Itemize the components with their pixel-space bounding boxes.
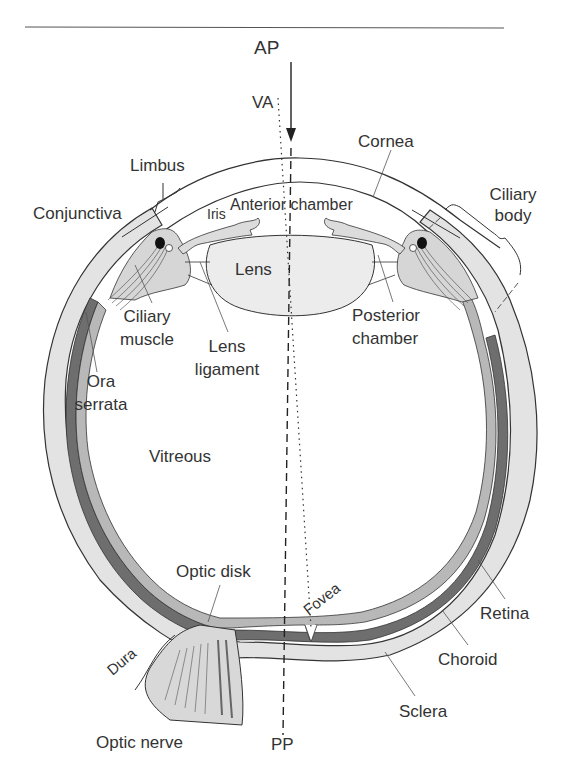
optic-nerve-label: Optic nerve [96,733,183,752]
canal-left [155,237,165,249]
visual-axis [278,98,311,628]
ora-serrata-label: Ora serrata [66,372,136,414]
posterior-chamber-label-line1: Posterior [352,306,420,325]
ciliary-muscle-label-line2: muscle [112,330,182,349]
lens-ligament-label-line2: ligament [182,360,272,379]
canal-circle-left [166,245,173,252]
ap-label: AP [254,38,279,57]
anterior-chamber-label: Anterior chamber [230,195,353,214]
lens-ligament-label: Lens ligament [182,337,272,379]
lens-ligament-label-line1: Lens [182,337,272,356]
pp-label: PP [271,735,294,754]
vitreous-label: Vitreous [149,447,211,466]
ora-serrata-label-line2: serrata [66,395,136,414]
limbus-label: Limbus [130,156,185,175]
ciliary-body-label: Ciliary body [478,185,548,225]
sclera-label: Sclera [399,702,447,721]
iris-label: Iris [207,205,226,224]
lens [206,235,374,316]
ora-serrata-label-line1: Ora [66,372,136,391]
va-label: VA [252,93,273,112]
ciliary-muscle-label: Ciliary muscle [112,307,182,349]
optic-disk-label: Optic disk [176,562,251,581]
lens-label: Lens [235,260,272,279]
ciliary-body-label-line2: body [478,206,548,225]
conjunctiva-label: Conjunctiva [33,204,122,223]
ciliary-body-label-line1: Ciliary [478,185,548,204]
cornea-label: Cornea [358,132,414,151]
choroid [66,298,508,642]
ciliary-muscle-label-line1: Ciliary [112,307,182,326]
choroid-label: Choroid [438,650,498,669]
top-rule [25,27,504,28]
posterior-chamber-label: Posterior chamber [352,306,420,348]
retina-label: Retina [480,604,529,623]
ap-arrow-head [286,128,296,142]
posterior-chamber-label-line2: chamber [352,329,420,348]
canal-circle-right [410,245,417,252]
canal-right [417,237,427,249]
